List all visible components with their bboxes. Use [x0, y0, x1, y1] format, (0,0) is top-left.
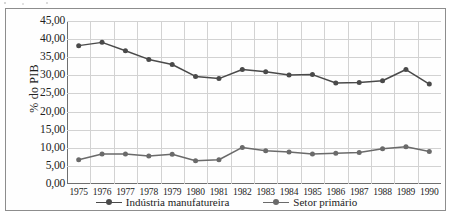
legend-label: Indústria manufatureira [126, 196, 230, 208]
legend-marker-icon [263, 198, 289, 207]
data-point [310, 72, 315, 77]
y-axis-tick: 10,00 [13, 142, 65, 154]
legend-label: Setor primário [293, 196, 357, 208]
data-point [403, 67, 408, 72]
legend-item: Setor primário [263, 196, 357, 208]
y-axis-tick: 15,00 [13, 124, 65, 136]
data-point [146, 57, 151, 62]
data-point [333, 80, 338, 85]
data-point [263, 69, 268, 74]
data-point [123, 48, 128, 53]
data-point [100, 40, 105, 45]
series-line [79, 147, 430, 161]
data-point [287, 72, 292, 77]
data-point [100, 151, 105, 156]
data-point [193, 158, 198, 163]
data-point [287, 150, 292, 155]
scan-artifact [3, 1, 73, 6]
data-point [333, 151, 338, 156]
y-axis-tick: 30,00 [13, 70, 65, 82]
series-1 [76, 40, 432, 87]
data-point [240, 145, 245, 150]
data-point [403, 144, 408, 149]
data-point [427, 82, 432, 87]
data-point [170, 152, 175, 157]
data-point [357, 80, 362, 85]
y-axis-tick: 35,00 [13, 51, 65, 63]
series-line [79, 42, 430, 84]
legend-marker-icon [96, 198, 122, 207]
data-point [76, 43, 81, 48]
data-point [240, 67, 245, 72]
data-point [380, 146, 385, 151]
data-point [123, 151, 128, 156]
y-axis-tick: 20,00 [13, 106, 65, 118]
y-axis-tick: 5,00 [13, 160, 65, 172]
series-2 [76, 144, 432, 163]
data-point [193, 74, 198, 79]
chart-figure: % do PIB 45,0040,0035,0030,0025,0020,001… [5, 8, 446, 211]
plot-area [67, 21, 441, 184]
data-point [380, 78, 385, 83]
data-point [146, 154, 151, 159]
data-point [263, 148, 268, 153]
y-axis-tick-labels: 45,0040,0035,0030,0025,0020,0015,0010,00… [9, 21, 65, 184]
series-layer [67, 21, 441, 184]
data-point [170, 62, 175, 67]
data-point [427, 149, 432, 154]
y-axis-tick: 25,00 [13, 88, 65, 100]
y-axis-tick: 45,00 [13, 15, 65, 27]
y-axis-tick: 0,00 [13, 178, 65, 190]
data-point [216, 76, 221, 81]
data-point [216, 157, 221, 162]
chart-legend: Indústria manufatureiraSetor primário [6, 194, 447, 210]
legend-item: Indústria manufatureira [96, 196, 230, 208]
data-point [310, 151, 315, 156]
data-point [357, 150, 362, 155]
data-point [76, 157, 81, 162]
y-axis-tick: 40,00 [13, 33, 65, 45]
